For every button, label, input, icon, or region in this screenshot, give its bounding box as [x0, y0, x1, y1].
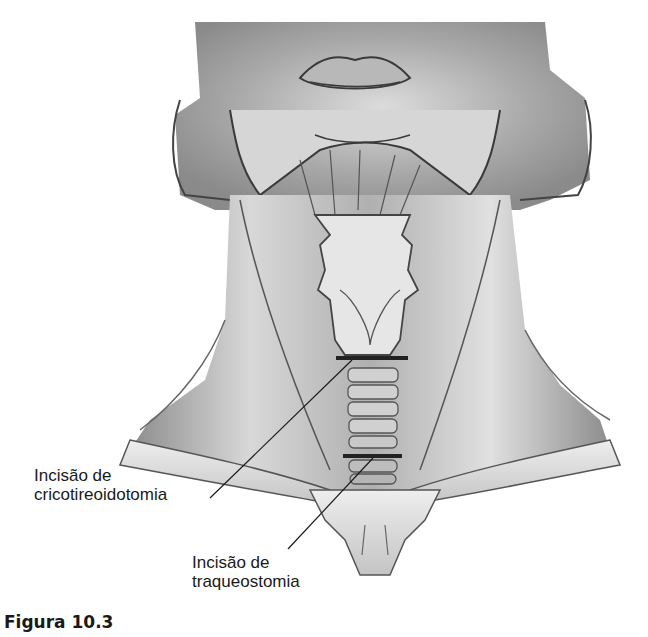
head: [173, 22, 591, 210]
label-cricothyroidotomy-line1: Incisão de: [34, 466, 167, 485]
label-cricothyroidotomy-line2: cricotireoidotomia: [34, 485, 167, 504]
neck-anatomy-illustration: [0, 0, 648, 637]
label-tracheostomy-line1: Incisão de: [192, 553, 300, 572]
label-tracheostomy: Incisão de traqueostomia: [192, 553, 300, 591]
trachea: [348, 368, 398, 484]
label-tracheostomy-line2: traqueostomia: [192, 572, 300, 591]
label-cricothyroidotomy: Incisão de cricotireoidotomia: [34, 466, 167, 504]
figure-caption: Figura 10.3: [4, 612, 113, 632]
